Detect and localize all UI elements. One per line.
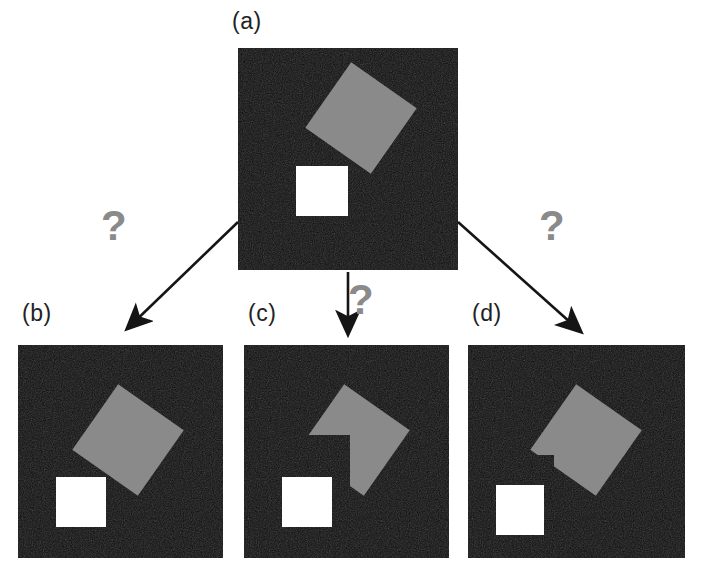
question-mark-left: ?: [101, 205, 127, 247]
panel-label-c: (c): [248, 300, 276, 327]
white-square-occluder: [296, 166, 348, 216]
figure-canvas: (a) ? ? ? (b) (c): [0, 0, 701, 576]
stimulus-panel-d: [468, 345, 685, 558]
white-square: [56, 477, 106, 527]
question-mark-middle: ?: [348, 279, 374, 321]
stimulus-panel-b: [18, 345, 223, 558]
panel-d-graphic: [468, 345, 685, 558]
arrow-to-panel-b: [128, 222, 238, 328]
stimulus-panel-a: [238, 48, 458, 270]
panel-label-d: (d): [472, 300, 502, 327]
panel-label-b: (b): [22, 300, 52, 327]
panel-a-graphic: [238, 48, 458, 270]
question-mark-right: ?: [539, 205, 565, 247]
panel-c-graphic: [244, 345, 449, 558]
stimulus-panel-c: [244, 345, 449, 558]
white-square: [496, 485, 544, 535]
panel-b-graphic: [18, 345, 223, 558]
white-square: [282, 477, 332, 527]
panel-label-a: (a): [232, 8, 262, 35]
